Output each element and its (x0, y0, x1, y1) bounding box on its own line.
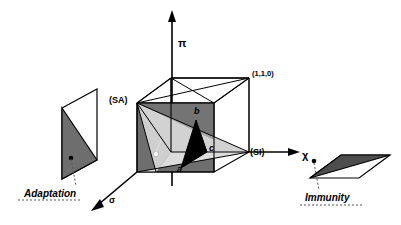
vertex-label-sa: (SA) (109, 96, 128, 105)
sigma-axis-line (99, 172, 137, 204)
region-label-b: b (194, 107, 200, 116)
pi-axis-label: π (178, 38, 186, 49)
vertex-label-si: (SI) (250, 148, 265, 157)
chi-axis-arrowhead (288, 148, 300, 156)
vertex-label-110: (1,1,0) (252, 70, 274, 78)
sigma-axis-label: σ (109, 196, 115, 205)
figure-canvas: (SA) (SI) (1,1,0) π χ σ a b c Adaptation… (0, 0, 401, 225)
adaptation-panel (18, 89, 97, 200)
cube-white-marker-dot (153, 151, 158, 156)
chi-axis-label: χ (302, 150, 308, 161)
region-label-c: c (209, 144, 214, 153)
immunity-panel-marker-dot (312, 159, 317, 164)
unit-cube (137, 78, 249, 172)
immunity-caption: Immunity (305, 193, 349, 203)
adaptation-caption: Adaptation (24, 189, 76, 199)
pi-axis-arrowhead (168, 10, 176, 22)
region-label-a: a (177, 165, 182, 174)
